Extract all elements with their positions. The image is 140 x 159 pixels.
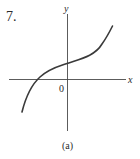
origin-label: 0 [59, 83, 64, 94]
y-axis-label: y [63, 3, 69, 14]
graph-figure: 7. y x 0 (a) [0, 0, 140, 159]
problem-number: 7. [6, 9, 17, 24]
x-axis-label: x [127, 74, 133, 85]
figure-caption: (a) [62, 140, 73, 152]
